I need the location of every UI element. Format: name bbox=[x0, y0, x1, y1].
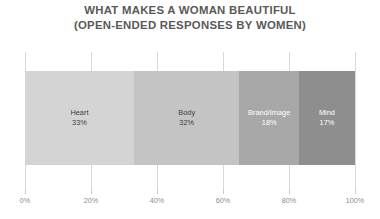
bar-segment[interactable]: Brand/Image18% bbox=[239, 71, 298, 165]
x-axis-tick-label: 100% bbox=[346, 196, 364, 205]
bar-segment[interactable]: Body32% bbox=[134, 71, 240, 165]
x-axis-tick-label: 0% bbox=[20, 196, 30, 205]
x-axis-tick-mark bbox=[289, 190, 290, 194]
bar-segment-value: 32% bbox=[179, 118, 194, 128]
bar-segment-label: Mind bbox=[319, 108, 335, 118]
chart-title-block: WHAT MAKES A WOMAN BEAUTIFUL (OPEN-ENDED… bbox=[0, 3, 380, 32]
x-axis-tick-mark bbox=[223, 190, 224, 194]
x-axis-tick-label: 80% bbox=[282, 196, 296, 205]
gridline bbox=[355, 52, 356, 190]
bar-segment-label: Heart bbox=[70, 108, 88, 118]
bar-segment[interactable]: Heart33% bbox=[25, 71, 134, 165]
x-axis: 0%20%40%60%80%100% bbox=[25, 190, 355, 216]
bar-segment-label: Body bbox=[178, 108, 195, 118]
chart-subtitle: (OPEN-ENDED RESPONSES BY WOMEN) bbox=[0, 18, 380, 33]
bar-segment-value: 33% bbox=[72, 118, 87, 128]
x-axis-tick-mark bbox=[91, 190, 92, 194]
bar-segment-value: 18% bbox=[262, 118, 277, 128]
bar-segment[interactable]: Mind17% bbox=[299, 71, 355, 165]
x-axis-tick-label: 40% bbox=[150, 196, 164, 205]
bar-segment-label: Brand/Image bbox=[248, 108, 290, 118]
x-axis-tick-mark bbox=[25, 190, 26, 194]
x-axis-tick-label: 20% bbox=[84, 196, 98, 205]
x-axis-tick-mark bbox=[157, 190, 158, 194]
chart-container: WHAT MAKES A WOMAN BEAUTIFUL (OPEN-ENDED… bbox=[0, 0, 380, 219]
bar-segment-value: 17% bbox=[320, 118, 335, 128]
stacked-bar-series: Heart33%Body32%Brand/Image18%Mind17% bbox=[25, 71, 355, 165]
chart-title: WHAT MAKES A WOMAN BEAUTIFUL bbox=[0, 3, 380, 18]
x-axis-tick-mark bbox=[355, 190, 356, 194]
x-axis-tick-label: 60% bbox=[216, 196, 230, 205]
